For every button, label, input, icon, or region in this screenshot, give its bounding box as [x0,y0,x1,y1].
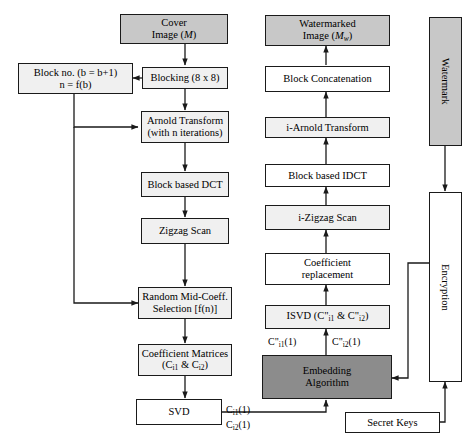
node-cover-image: Cover Image (M) [120,14,228,44]
node-blocking: Blocking (8 x 8) [142,67,228,89]
embedding-line1: Embedding [265,365,389,377]
node-coefficient-matrices: Coefficient Matrices (Ci1 & Ci2) [138,344,232,376]
node-i-zigzag-scan: i-Zigzag Scan [265,205,390,230]
node-watermark: Watermark [429,17,462,146]
node-block-concatenation: Block Concatenation [265,66,390,92]
edge-label-cpp-i1-1: C"i1(1) [268,336,296,349]
i-arnold-label: i-Arnold Transform [286,122,369,134]
node-svd: SVD [136,399,222,425]
watermarked-line2: Image (Mw) [268,30,387,43]
edge-label-ci2-1: Ci2(1) [226,419,250,432]
random-mid-line2: Selection [f(n)] [141,303,229,315]
dct-label: Block based DCT [147,179,222,191]
watermarked-line1: Watermarked [268,18,387,30]
coeff-replacement-line1: Coefficient [268,257,387,269]
node-arnold-transform: Arnold Transform (with n iterations) [141,111,229,143]
cover-image-line2: Image (M) [123,29,225,41]
node-zigzag-scan: Zigzag Scan [141,218,229,244]
node-block-no: Block no. (b = b+1) n = f(b) [18,63,133,94]
svd-label: SVD [168,406,189,418]
node-watermarked-image: Watermarked Image (Mw) [265,15,390,46]
node-coefficient-replacement: Coefficient replacement [265,253,390,285]
idct-label: Block based IDCT [288,170,367,182]
coeff-replacement-line2: replacement [268,269,387,281]
block-no-line1: Block no. (b = b+1) [21,67,130,79]
isvd-label: ISVD (C"i1 & C"i2) [287,310,369,323]
node-i-arnold-transform: i-Arnold Transform [265,117,390,138]
cover-image-line1: Cover [123,17,225,29]
i-zigzag-label: i-Zigzag Scan [298,212,357,224]
coeff-matrices-line1: Coefficient Matrices [141,348,229,360]
node-isvd: ISVD (C"i1 & C"i2) [265,305,390,329]
coeff-matrices-line2: (Ci1 & Ci2) [141,359,229,372]
zigzag-label: Zigzag Scan [159,225,211,237]
edge-label-ci1-1: Ci1(1) [226,404,250,417]
arnold-line2: (with n iterations) [144,127,226,139]
random-mid-line1: Random Mid-Coeff. [141,291,229,303]
blocking-label: Blocking (8 x 8) [150,72,219,84]
arnold-line1: Arnold Transform [144,115,226,127]
node-block-based-idct: Block based IDCT [265,164,390,187]
encryption-label: Encryption [440,264,452,311]
watermark-label: Watermark [440,58,452,104]
block-concat-label: Block Concatenation [283,73,371,85]
embedding-line2: Algorithm [265,377,389,389]
block-no-line2: n = f(b) [21,79,130,91]
node-embedding-algorithm: Embedding Algorithm [262,355,392,399]
node-secret-keys: Secret Keys [345,412,440,433]
node-block-based-dct: Block based DCT [141,172,229,197]
flowchart-canvas: Cover Image (M) Block no. (b = b+1) n = … [0,0,472,445]
edge-label-cpp-i2-1: C"i2(1) [332,336,360,349]
node-random-mid-coeff: Random Mid-Coeff. Selection [f(n)] [138,287,232,319]
node-encryption: Encryption [429,192,462,382]
secret-keys-label: Secret Keys [367,417,417,429]
